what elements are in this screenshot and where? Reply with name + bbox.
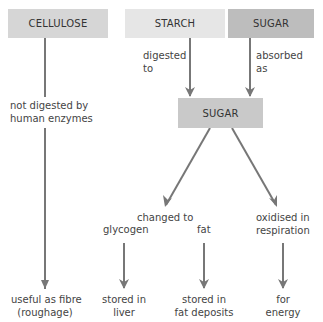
sugar-box: SUGAR [178,98,263,128]
energy-label: forenergy [262,294,304,319]
fat-label: fat [197,224,211,237]
absorbed-as-label: absorbedas [256,50,303,75]
fibre-label: useful as fibre(roughage) [11,294,79,319]
fat-deposits-label: stored infat deposits [172,294,236,319]
liver-label: stored inliver [98,294,150,319]
not-digested-label: not digested byhuman enzymes [10,100,93,125]
oxidised-label: oxidised inrespiration [256,212,310,237]
sugar-source-box: SUGAR [228,9,314,38]
arrows-layer [0,0,323,322]
digested-to-label: digestedto [143,50,186,75]
cellulose-box: CELLULOSE [8,9,108,38]
glycogen-label: glycogen [103,224,149,237]
changed-to-label: changed to [137,212,193,225]
starch-box: STARCH [125,9,225,38]
